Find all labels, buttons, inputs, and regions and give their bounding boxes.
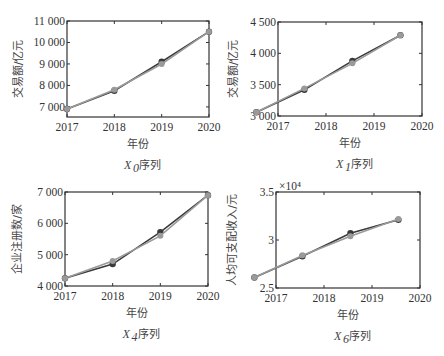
data-point-marker xyxy=(62,275,68,281)
y-tick-label: 9 000 xyxy=(39,58,65,70)
data-point-marker xyxy=(395,216,401,222)
data-point-marker xyxy=(397,32,403,38)
panel-caption: X xyxy=(122,327,131,341)
plot-frame xyxy=(276,192,420,288)
panel-caption: X xyxy=(123,158,132,172)
y-tick-label: 8 000 xyxy=(39,79,65,91)
x-tick-label: 2017 xyxy=(56,121,79,133)
y-axis-label: 人均可支配收入/元 xyxy=(225,194,239,286)
x-tick-label: 2019 xyxy=(361,292,384,304)
y-axis-label: 交易额/亿元 xyxy=(11,40,25,99)
y-tick-label: 2.5 xyxy=(260,282,275,294)
y-tick-label: 4 000 xyxy=(37,280,63,292)
y-tick-label: 4 000 xyxy=(250,47,276,59)
x-tick-label: 2018 xyxy=(313,292,336,304)
x-tick-label: 2019 xyxy=(149,290,172,302)
data-point-marker xyxy=(347,233,353,239)
data-point-marker xyxy=(251,274,257,280)
chart-figure: 20172018201920207 0008 0009 00010 00011 … xyxy=(0,0,444,356)
panel-caption-suffix: 序列 xyxy=(349,329,371,343)
chart-panel-2: 20172018201920204 0005 0006 0007 000企业注册… xyxy=(10,186,220,344)
data-point-marker xyxy=(299,252,305,258)
chart-panel-0: 20172018201920207 0008 0009 00010 00011 … xyxy=(11,15,221,175)
y-tick-label: 5 000 xyxy=(37,249,63,261)
chart-panel-3: 20172018201920202.533.5×10⁴人均可支配收入/元年份X6… xyxy=(225,180,432,346)
x-tick-label: 2019 xyxy=(150,121,173,133)
y-tick-label: 10 000 xyxy=(33,36,65,48)
data-point-marker xyxy=(64,106,70,112)
series-line-0 xyxy=(65,195,208,278)
data-point-marker xyxy=(205,192,211,198)
plot-frame xyxy=(67,21,209,117)
y-tick-label: 4 500 xyxy=(250,16,276,28)
x-tick-label: 2018 xyxy=(101,290,124,302)
series-line-1 xyxy=(65,195,208,278)
data-point-marker xyxy=(110,258,116,264)
y-tick-label: 6 000 xyxy=(37,217,63,229)
x-axis-label: 年份 xyxy=(337,308,359,322)
y-tick-label: 7 000 xyxy=(39,101,65,113)
panel-caption: X xyxy=(335,157,344,171)
data-point-marker xyxy=(349,60,355,66)
data-point-marker xyxy=(159,61,165,67)
data-point-marker xyxy=(157,233,163,239)
panel-caption: X xyxy=(333,329,342,343)
x-tick-label: 2020 xyxy=(411,120,434,132)
y-axis-label: 交易额/亿元 xyxy=(226,40,240,99)
y-tick-label: 3.5 xyxy=(260,186,275,198)
series-line-0 xyxy=(67,32,209,109)
panel-caption-suffix: 序列 xyxy=(138,327,160,341)
y-tick-label: 3 500 xyxy=(250,79,276,91)
series-line-1 xyxy=(67,32,209,109)
y-tick-label: 7 000 xyxy=(37,186,63,198)
x-tick-label: 2020 xyxy=(197,290,220,302)
panel-caption-suffix: 序列 xyxy=(351,157,373,171)
x-axis-label: 年份 xyxy=(339,136,361,150)
y-axis-label: 企业注册数/家 xyxy=(10,204,24,274)
data-point-marker xyxy=(206,29,212,35)
x-axis-label: 年份 xyxy=(126,306,148,320)
x-tick-label: 2018 xyxy=(103,121,126,133)
y-multiplier: ×10⁴ xyxy=(279,180,301,192)
data-point-marker xyxy=(253,109,259,115)
y-tick-label: 11 000 xyxy=(34,15,65,27)
data-point-marker xyxy=(301,85,307,91)
data-point-marker xyxy=(111,87,117,93)
x-tick-label: 2018 xyxy=(315,120,338,132)
panel-caption-suffix: 序列 xyxy=(139,158,161,172)
y-tick-label: 3 xyxy=(268,234,274,246)
x-tick-label: 2019 xyxy=(363,120,386,132)
x-axis-label: 年份 xyxy=(127,137,149,151)
chart-panel-1: 20172018201920203 0003 5004 0004 500交易额/… xyxy=(226,16,434,174)
x-tick-label: 2020 xyxy=(409,292,432,304)
x-tick-label: 2020 xyxy=(198,121,221,133)
